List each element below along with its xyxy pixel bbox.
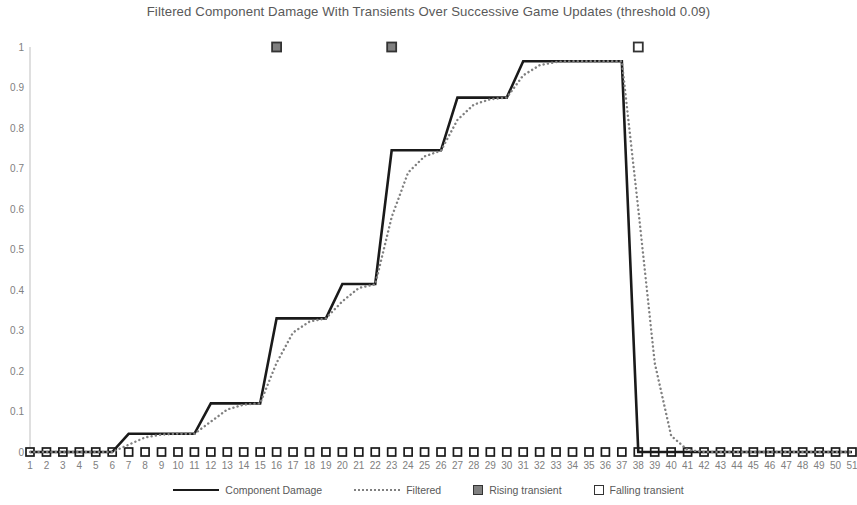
- svg-text:18: 18: [304, 460, 316, 471]
- svg-text:24: 24: [403, 460, 415, 471]
- svg-text:17: 17: [287, 460, 299, 471]
- svg-text:3: 3: [60, 460, 66, 471]
- svg-text:20: 20: [337, 460, 349, 471]
- legend-item-component-damage: Component Damage: [173, 484, 322, 496]
- svg-text:22: 22: [370, 460, 382, 471]
- svg-text:0.1: 0.1: [10, 406, 24, 417]
- legend-label-falling-transient: Falling transient: [610, 484, 684, 496]
- svg-text:16: 16: [271, 460, 283, 471]
- svg-text:7: 7: [126, 460, 132, 471]
- svg-text:13: 13: [222, 460, 234, 471]
- svg-text:39: 39: [649, 460, 661, 471]
- legend-item-filtered: Filtered: [354, 484, 441, 496]
- svg-text:36: 36: [600, 460, 612, 471]
- svg-text:15: 15: [255, 460, 267, 471]
- svg-text:30: 30: [501, 460, 513, 471]
- svg-text:49: 49: [814, 460, 826, 471]
- svg-text:2: 2: [44, 460, 50, 471]
- svg-text:4: 4: [77, 460, 83, 471]
- svg-text:0.9: 0.9: [10, 82, 24, 93]
- svg-text:35: 35: [583, 460, 595, 471]
- svg-text:50: 50: [830, 460, 842, 471]
- svg-text:25: 25: [419, 460, 431, 471]
- svg-text:6: 6: [109, 460, 115, 471]
- svg-text:0.8: 0.8: [10, 123, 24, 134]
- svg-text:40: 40: [666, 460, 678, 471]
- svg-text:1: 1: [27, 460, 33, 471]
- legend-label-filtered: Filtered: [406, 484, 441, 496]
- svg-text:19: 19: [320, 460, 332, 471]
- svg-text:31: 31: [518, 460, 530, 471]
- svg-text:48: 48: [797, 460, 809, 471]
- solid-line-icon: [173, 489, 219, 491]
- legend-label-component-damage: Component Damage: [225, 484, 322, 496]
- svg-text:14: 14: [238, 460, 250, 471]
- svg-text:0.2: 0.2: [10, 366, 24, 377]
- svg-text:42: 42: [698, 460, 710, 471]
- svg-text:37: 37: [616, 460, 628, 471]
- svg-text:0.7: 0.7: [10, 163, 24, 174]
- svg-text:0.5: 0.5: [10, 244, 24, 255]
- transient-marker-group: [272, 43, 643, 52]
- chart-legend: Component Damage Filtered Rising transie…: [0, 484, 857, 496]
- chart-plot-area: 00.10.20.30.40.50.60.70.80.91 1234567891…: [0, 0, 857, 505]
- svg-text:29: 29: [485, 460, 497, 471]
- svg-text:12: 12: [205, 460, 217, 471]
- svg-text:34: 34: [567, 460, 579, 471]
- svg-text:45: 45: [748, 460, 760, 471]
- svg-text:32: 32: [534, 460, 546, 471]
- svg-text:5: 5: [93, 460, 99, 471]
- svg-text:27: 27: [452, 460, 464, 471]
- svg-text:21: 21: [353, 460, 365, 471]
- svg-text:43: 43: [715, 460, 727, 471]
- svg-text:47: 47: [781, 460, 793, 471]
- hollow-square-icon: [594, 485, 604, 495]
- svg-text:28: 28: [468, 460, 480, 471]
- filled-square-icon: [473, 485, 483, 495]
- svg-text:46: 46: [764, 460, 776, 471]
- svg-text:1: 1: [18, 42, 24, 53]
- svg-text:44: 44: [731, 460, 743, 471]
- dotted-line-icon: [354, 489, 400, 491]
- svg-text:0.3: 0.3: [10, 325, 24, 336]
- svg-text:10: 10: [172, 460, 184, 471]
- legend-item-rising-transient: Rising transient: [473, 484, 561, 496]
- x-axis: 1234567891011121314151617181920212223242…: [27, 460, 857, 471]
- svg-text:23: 23: [386, 460, 398, 471]
- svg-text:11: 11: [189, 460, 200, 471]
- svg-text:9: 9: [159, 460, 165, 471]
- svg-text:0: 0: [18, 447, 24, 458]
- svg-text:38: 38: [633, 460, 645, 471]
- svg-text:51: 51: [846, 460, 857, 471]
- svg-text:0.4: 0.4: [10, 285, 24, 296]
- svg-text:41: 41: [682, 460, 694, 471]
- svg-text:8: 8: [142, 460, 148, 471]
- legend-label-rising-transient: Rising transient: [489, 484, 561, 496]
- svg-text:26: 26: [435, 460, 447, 471]
- svg-text:0.6: 0.6: [10, 204, 24, 215]
- series-group: [30, 61, 852, 452]
- chart-container: Filtered Component Damage With Transient…: [0, 0, 857, 505]
- svg-text:33: 33: [551, 460, 563, 471]
- y-axis: 00.10.20.30.40.50.60.70.80.91: [10, 42, 30, 458]
- legend-item-falling-transient: Falling transient: [594, 484, 684, 496]
